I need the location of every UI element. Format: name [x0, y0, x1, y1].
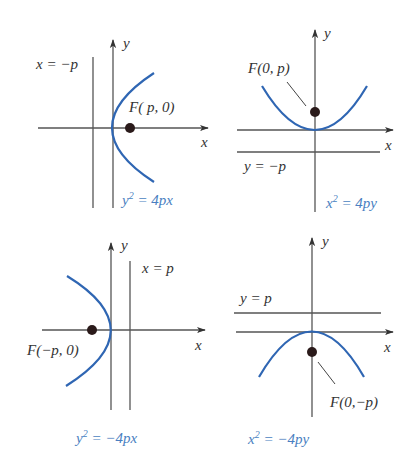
focus-label: F( p, 0) [128, 99, 174, 116]
equation-base: y [74, 430, 83, 446]
equation-label: x2 = 4py [325, 193, 377, 211]
focus-point [310, 107, 320, 117]
equation-label: y2 = 4px [120, 190, 173, 208]
equation-label: x2 = −4py [247, 429, 309, 447]
axis-y-label: y [320, 233, 329, 249]
axis-y-label: y [322, 25, 331, 41]
equation-rest: = −4py [260, 431, 310, 447]
focus-label: F(0,−p) [329, 394, 378, 411]
directrix-label: x = −p [35, 56, 78, 72]
panel-opens-down: y x y = p F(0,−p) x2 = −4py [234, 233, 393, 447]
directrix-label: x = p [141, 260, 174, 276]
panel-opens-up: y x y = −p F(0, p) x2 = 4py [237, 25, 393, 212]
panel-opens-right: y x x = −p F( p, 0) y2 = 4px [35, 35, 208, 208]
focus-leader-line [318, 362, 335, 384]
equation-rest: = 4px [134, 192, 174, 208]
focus-leader-line [287, 82, 306, 106]
focus-label: F(−p, 0) [26, 342, 79, 359]
axis-y-label: y [119, 237, 128, 253]
equation-base: y [120, 192, 129, 208]
axis-y-label: y [121, 35, 130, 51]
equation-label: y2 = −4px [74, 428, 137, 446]
focus-point [125, 123, 135, 133]
directrix-label: y = p [238, 290, 272, 306]
focus-point [87, 325, 97, 335]
parabolas-figure: y x x = −p F( p, 0) y2 = 4px y x y = −p … [0, 0, 418, 476]
equation-rest: = −4px [88, 430, 138, 446]
directrix-label: y = −p [242, 158, 286, 174]
panel-opens-left: y x x = p F(−p, 0) y2 = −4px [26, 237, 205, 446]
focus-point [307, 347, 317, 357]
axis-x-label: x [384, 137, 392, 153]
axis-x-label: x [383, 339, 391, 355]
axis-x-label: x [194, 337, 202, 353]
axis-x-label: x [200, 134, 208, 150]
focus-label: F(0, p) [247, 60, 290, 77]
equation-rest: = 4py [338, 195, 378, 211]
